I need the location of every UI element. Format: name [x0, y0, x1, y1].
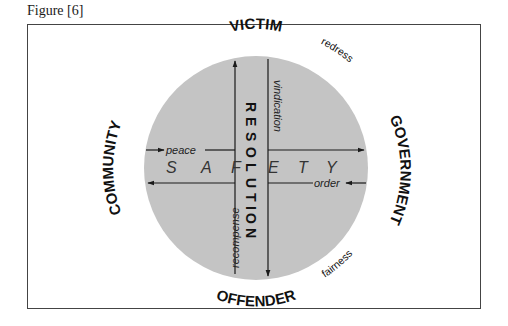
svg-text:O: O [243, 213, 259, 224]
label-peace: peace [165, 144, 196, 156]
svg-text:R: R [243, 102, 259, 112]
svg-text:E: E [268, 159, 279, 176]
svg-text:Y: Y [326, 159, 338, 176]
svg-text:F: F [231, 159, 242, 176]
label-redress: redress [320, 35, 356, 65]
svg-text:L: L [243, 163, 259, 172]
restorative-justice-diagram: peace order vindication recompense S A F… [0, 0, 508, 326]
label-victim: VICTIM [228, 15, 284, 35]
svg-text:S: S [166, 159, 177, 176]
resolution-word: R E S O L U T I O N [243, 102, 259, 238]
svg-text:A: A [200, 159, 212, 176]
label-offender: OFFENDER [215, 286, 298, 310]
svg-text:T: T [243, 193, 259, 202]
label-order: order [314, 177, 341, 189]
svg-text:O: O [243, 147, 259, 158]
svg-text:S: S [243, 132, 259, 141]
svg-text:N: N [243, 228, 259, 238]
label-recompense: recompense [229, 207, 241, 268]
label-vindication: vindication [272, 80, 284, 132]
svg-text:U: U [243, 178, 259, 188]
label-community: COMMUNITY [99, 118, 124, 218]
svg-text:I: I [243, 206, 259, 210]
label-government: GOVERNMENT [387, 112, 415, 227]
svg-text:E: E [243, 117, 259, 126]
svg-text:T: T [298, 159, 309, 176]
